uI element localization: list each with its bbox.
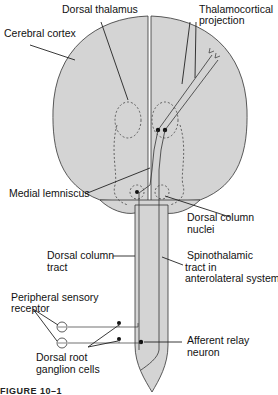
afferent-relay-dot — [139, 340, 143, 344]
dorsal-column-neuron — [135, 190, 139, 194]
label-medial-lemniscus: Medial lemniscus — [9, 188, 90, 199]
label-cerebral-cortex: Cerebral cortex — [4, 28, 76, 39]
label-spinothalamic-line1: Spinothalamic — [187, 250, 253, 261]
label-dorsal-column-nuclei-line1: Dorsal column — [187, 212, 254, 223]
label-drg-line2: ganglion cells — [36, 364, 100, 375]
label-drg-line1: Dorsal root — [36, 352, 87, 363]
label-dorsal-column-tract-line1: Dorsal column — [47, 250, 114, 261]
label-thalamocortical-line2: projection — [199, 15, 245, 26]
label-afferent-relay-line1: Afferent relay — [187, 335, 249, 346]
figure-caption: FIGURE 10–1 — [0, 386, 62, 395]
label-dorsal-thalamus: Dorsal thalamus — [62, 4, 138, 15]
label-afferent-relay-line2: neuron — [187, 347, 220, 358]
spinal-cord — [135, 205, 168, 392]
label-dorsal-column-nuclei-line2: nuclei — [187, 224, 214, 235]
label-spinothalamic-line3: anterolateral system — [185, 273, 278, 284]
label-peripheral-receptor-line2: receptor — [11, 303, 50, 314]
right-hemisphere — [151, 16, 247, 202]
label-dorsal-column-tract-line2: tract — [47, 262, 67, 273]
